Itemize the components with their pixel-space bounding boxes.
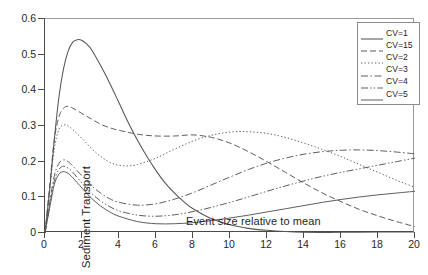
y-axis-tick-label: 0.1 — [0, 190, 36, 202]
legend: CV=1CV=15CV=2CV=3CV=4CV=5 — [357, 22, 420, 105]
legend-label: CV=15 — [386, 41, 413, 50]
legend-label: CV=2 — [386, 53, 408, 62]
legend-line-swatch — [361, 66, 383, 74]
y-axis-tick-label: 0.2 — [0, 155, 36, 167]
x-axis-tick-label: 4 — [103, 238, 133, 250]
x-axis-tick-label: 2 — [66, 238, 96, 250]
x-axis-tick-mark — [377, 232, 378, 238]
legend-line-swatch — [361, 78, 383, 86]
legend-item: CV=15 — [361, 39, 416, 51]
x-axis-tick-label: 16 — [325, 238, 355, 250]
x-axis-tick-label: 6 — [140, 238, 170, 250]
x-axis-tick-mark — [155, 232, 156, 238]
legend-line-swatch — [361, 90, 383, 98]
legend-label: CV=4 — [386, 77, 408, 86]
x-axis-tick-mark — [303, 232, 304, 238]
y-axis-tick-label: 0.6 — [0, 12, 36, 24]
x-axis-tick-mark — [81, 232, 82, 238]
legend-line-swatch — [361, 29, 383, 37]
legend-label: CV=3 — [386, 65, 408, 74]
legend-item: CV=4 — [361, 76, 416, 88]
legend-item: CV=2 — [361, 51, 416, 63]
x-axis-tick-label: 18 — [362, 238, 392, 250]
legend-line-swatch — [361, 53, 383, 61]
x-axis-tick-mark — [414, 232, 415, 238]
x-axis-tick-label: 10 — [214, 238, 244, 250]
legend-line-swatch — [361, 41, 383, 49]
x-axis-tick-mark — [340, 232, 341, 238]
x-axis-tick-label: 14 — [288, 238, 318, 250]
x-axis-tick-label: 8 — [177, 238, 207, 250]
x-axis-tick-mark — [118, 232, 119, 238]
y-axis-tick-label: 0.5 — [0, 48, 36, 60]
x-axis-title: Event size relative to mean — [186, 215, 321, 227]
legend-item: CV=5 — [361, 88, 416, 100]
y-axis-tick-label: 0.3 — [0, 119, 36, 131]
legend-item: CV=1 — [361, 27, 416, 39]
x-axis-tick-mark — [192, 232, 193, 238]
x-axis-tick-mark — [229, 232, 230, 238]
x-axis-tick-label: 0 — [29, 238, 59, 250]
x-axis-tick-mark — [266, 232, 267, 238]
y-axis-tick-label: 0 — [0, 226, 36, 238]
chart-figure: 00.10.20.30.40.50.6 Sediment Transport 0… — [0, 0, 428, 275]
series-line-cv-15 — [45, 106, 415, 233]
x-axis-tick-label: 12 — [251, 238, 281, 250]
y-axis-tick-label: 0.4 — [0, 83, 36, 95]
x-axis-tick-mark — [44, 232, 45, 238]
legend-label: CV=5 — [386, 90, 408, 99]
x-axis-tick-label: 20 — [399, 238, 428, 250]
legend-item: CV=3 — [361, 64, 416, 76]
legend-label: CV=1 — [386, 29, 408, 38]
